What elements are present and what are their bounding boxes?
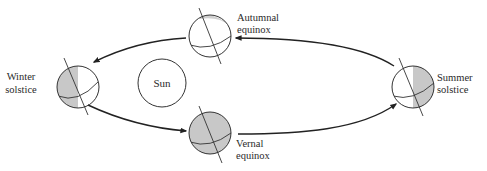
vernal-label-line1: Vernal <box>236 138 263 149</box>
winter-label-line1: Winter <box>7 71 36 82</box>
sun-label: Sun <box>153 77 171 89</box>
autumnal-label-line2: equinox <box>237 24 272 35</box>
autumnal-label-line1: Autumnal <box>237 12 279 23</box>
sun: Sun <box>138 59 186 107</box>
earth-vernal-equinox <box>189 106 231 163</box>
earth-summer-solstice <box>392 58 434 116</box>
orbit-diagram: Sun Winter solstice Autumnal equinox Ver… <box>0 0 487 171</box>
winter-label-line2: solstice <box>5 84 37 95</box>
orbit-arrow-vernal-to-summer <box>238 104 396 134</box>
orbit-path <box>88 38 396 134</box>
summer-label-line2: solstice <box>437 84 469 95</box>
orbit-arrow-autumn-to-winter <box>94 38 186 62</box>
orbit-arrow-summer-to-autumn <box>236 38 394 66</box>
vernal-label-line2: equinox <box>236 150 271 161</box>
summer-label-line1: Summer <box>437 72 473 83</box>
orbit-arrow-winter-to-vernal <box>88 105 186 131</box>
earth-autumnal-equinox <box>189 8 231 64</box>
